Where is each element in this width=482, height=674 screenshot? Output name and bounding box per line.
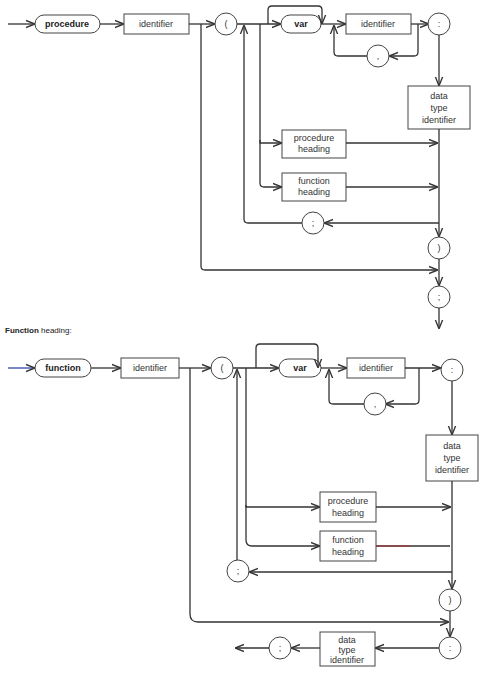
svg-text:,: , <box>377 51 380 61</box>
svg-text:heading: heading <box>298 187 330 197</box>
svg-text:data: data <box>338 635 356 645</box>
svg-text:heading: heading <box>332 508 364 518</box>
svg-text:heading: heading <box>332 547 364 557</box>
svg-text::: : <box>451 365 454 375</box>
svg-text:var: var <box>294 19 308 29</box>
svg-text:data: data <box>430 91 448 101</box>
function-heading-diagram: function identifier ( var identifier : ,… <box>8 344 478 666</box>
svg-text:function: function <box>298 176 330 186</box>
procedure-keyword: procedure <box>45 19 89 29</box>
svg-text:type: type <box>430 103 447 113</box>
svg-text:function: function <box>332 535 364 545</box>
svg-text:identifier: identifier <box>435 465 469 475</box>
svg-text:;: ; <box>312 218 315 228</box>
svg-text:var: var <box>293 363 307 373</box>
svg-text:identifier: identifier <box>422 115 456 125</box>
svg-text:): ) <box>449 595 452 605</box>
svg-text:data: data <box>443 441 461 451</box>
svg-text::: : <box>449 643 452 653</box>
svg-text:;: ; <box>279 643 282 653</box>
procedure-heading-diagram: procedure identifier ( var identifier : … <box>8 6 470 328</box>
svg-text:(: ( <box>225 19 228 29</box>
svg-text:type: type <box>443 453 460 463</box>
svg-text:procedure: procedure <box>328 496 369 506</box>
svg-text:): ) <box>438 243 441 253</box>
svg-text:;: ; <box>237 566 240 576</box>
svg-text:type: type <box>338 645 355 655</box>
svg-text:identifier: identifier <box>330 655 364 665</box>
svg-text:,: , <box>374 399 377 409</box>
svg-text:identifier: identifier <box>133 363 167 373</box>
svg-text:identifier: identifier <box>361 19 395 29</box>
svg-text:;: ; <box>438 292 441 302</box>
svg-text:function: function <box>45 363 81 373</box>
svg-text:(: ( <box>221 363 224 373</box>
svg-text:procedure: procedure <box>294 133 335 143</box>
svg-text:heading: heading <box>298 144 330 154</box>
svg-text::: : <box>438 19 441 29</box>
svg-text:identifier: identifier <box>359 363 393 373</box>
svg-text:identifier: identifier <box>139 19 173 29</box>
